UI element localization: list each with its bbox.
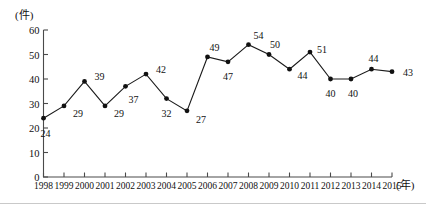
x-axis-tick-label: 2015 — [383, 181, 402, 191]
x-axis-tick-label: 2013 — [342, 181, 361, 191]
x-axis-tick-label: 2009 — [260, 181, 279, 191]
data-point-value-label: 51 — [317, 44, 327, 55]
data-point-value-label: 49 — [210, 41, 220, 52]
data-point-marker — [328, 77, 333, 82]
data-point-marker — [267, 52, 272, 57]
x-axis-tick-label: 2007 — [219, 181, 238, 191]
y-axis-tick-label: 20 — [29, 123, 40, 134]
data-point-value-label: 44 — [369, 53, 379, 64]
data-point-marker — [164, 96, 169, 101]
data-point-value-label: 37 — [129, 94, 139, 105]
chart-plot-area — [0, 0, 426, 211]
data-point-marker — [390, 69, 395, 74]
data-point-marker — [103, 104, 108, 109]
x-axis-tick-label: 1998 — [34, 181, 53, 191]
data-point-marker — [369, 67, 374, 72]
data-point-value-label: 27 — [196, 113, 206, 124]
data-point-marker — [287, 67, 292, 72]
x-axis-tick-label: 2003 — [137, 181, 156, 191]
data-point-marker — [226, 59, 231, 64]
y-axis-ticks — [44, 30, 49, 177]
x-axis-tick-label: 2010 — [280, 181, 299, 191]
y-axis-tick-label: 60 — [29, 25, 40, 36]
data-point-marker — [123, 84, 128, 89]
x-axis-tick-label: 2012 — [321, 181, 340, 191]
data-point-marker — [144, 72, 149, 77]
data-point-value-label: 54 — [254, 29, 264, 40]
data-point-value-label: 47 — [223, 70, 233, 81]
x-axis-tick-label: 2000 — [75, 181, 94, 191]
x-axis-tick-label: 2014 — [362, 181, 381, 191]
x-axis-tick-label: 2005 — [178, 181, 197, 191]
x-axis-tick-label: 2002 — [116, 181, 135, 191]
line-chart-figure: (件) (年) 0102030405060 199819992000200120… — [0, 0, 426, 211]
x-axis-tick-label: 2006 — [198, 181, 217, 191]
x-axis-tick-label: 2001 — [96, 181, 115, 191]
data-point-value-label: 43 — [403, 66, 413, 77]
data-point-marker — [246, 42, 251, 47]
data-point-value-label: 29 — [114, 107, 124, 118]
data-point-value-label: 39 — [95, 71, 105, 82]
data-point-value-label: 40 — [326, 88, 336, 99]
y-axis-tick-label: 50 — [29, 49, 40, 60]
data-point-value-label: 32 — [162, 107, 172, 118]
data-point-marker — [349, 77, 354, 82]
data-point-marker — [62, 104, 67, 109]
data-point-value-label: 44 — [298, 70, 308, 81]
x-axis-ticks — [44, 173, 393, 178]
data-point-value-label: 42 — [156, 64, 166, 75]
data-point-marker — [185, 108, 190, 113]
y-axis-tick-label: 40 — [29, 74, 40, 85]
data-point-marker — [308, 50, 313, 55]
figure-bottom-rule — [0, 203, 426, 204]
data-point-value-label: 50 — [270, 38, 280, 49]
data-point-value-label: 24 — [41, 128, 51, 139]
x-axis-tick-label: 2004 — [157, 181, 176, 191]
y-axis-tick-label: 10 — [29, 147, 40, 158]
x-axis-tick-label: 1999 — [55, 181, 74, 191]
data-point-marker — [41, 116, 46, 121]
x-axis-tick-label: 2011 — [301, 181, 320, 191]
data-point-value-label: 29 — [73, 107, 83, 118]
data-point-value-label: 40 — [348, 88, 358, 99]
data-point-marker — [82, 79, 87, 84]
y-axis-tick-label: 30 — [29, 98, 40, 109]
data-point-marker — [205, 55, 210, 60]
x-axis-tick-label: 2008 — [239, 181, 258, 191]
